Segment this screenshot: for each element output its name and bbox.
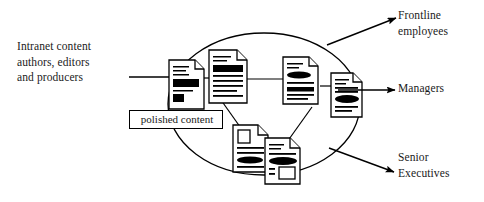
document-node-4: [331, 73, 362, 117]
output-label-frontline: Frontline employees: [398, 8, 484, 39]
source-label: Intranet content authors, editors and pr…: [17, 39, 135, 86]
document-node-3: [283, 57, 318, 104]
connector-doc3-doc6: [287, 107, 312, 142]
document-node-2: [209, 50, 247, 103]
diagram-canvas: Intranet content authors, editors and pr…: [0, 0, 484, 202]
document-node-1: [169, 60, 204, 109]
output-arrow-senior: [329, 148, 394, 172]
output-label-managers: Managers: [398, 81, 484, 97]
output-arrow-frontline: [327, 18, 396, 45]
output-label-senior: Senior Executives: [398, 150, 484, 181]
polished-content-callout: polished content: [129, 110, 223, 129]
polished-content-label: polished content: [130, 111, 224, 130]
document-node-5: [233, 125, 268, 172]
document-node-6: [265, 138, 300, 184]
